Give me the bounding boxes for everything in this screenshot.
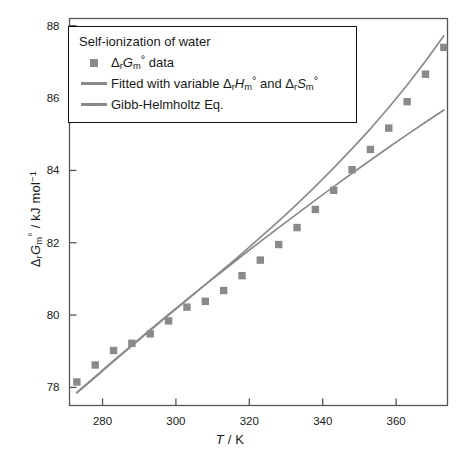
data-point-marker [385, 124, 392, 131]
x-axis-ticks [103, 399, 397, 406]
legend-marker-square-icon [77, 59, 111, 67]
data-point-marker [128, 340, 135, 347]
legend-line-variable-fit-icon [77, 82, 111, 84]
data-point-marker [220, 287, 227, 294]
legend-label-gibbs-helmholtz: Gibb-Helmholtz Eq. [111, 97, 224, 112]
x-tick-label: 340 [313, 415, 332, 427]
legend-entry-variable-fit: Fitted with variable ΔrHm° and ΔrSm° [77, 73, 348, 94]
x-tick-label: 360 [387, 415, 406, 427]
legend-label-data: ΔrGm° data [111, 53, 174, 71]
legend-line-gibbs-helmholtz-icon [77, 103, 111, 105]
series-line-gibbs-helmholtz [77, 110, 444, 392]
data-point-marker [257, 256, 264, 263]
data-point-marker [73, 378, 80, 385]
data-point-marker [440, 44, 447, 51]
legend-entry-data: ΔrGm° data [77, 52, 348, 73]
data-point-marker [293, 224, 300, 231]
data-point-marker [403, 98, 410, 105]
legend-label-variable-fit: Fitted with variable ΔrHm° and ΔrSm° [111, 74, 318, 92]
data-point-marker [147, 330, 154, 337]
legend-title: Self-ionization of water [79, 34, 348, 49]
data-point-marker [367, 146, 374, 153]
data-point-marker [238, 272, 245, 279]
x-tick-label: 320 [240, 415, 259, 427]
y-tick-label: 88 [24, 20, 60, 32]
y-tick-label: 78 [24, 381, 60, 393]
data-point-marker [91, 361, 98, 368]
data-point-marker [330, 187, 337, 194]
data-point-marker [348, 166, 355, 173]
data-point-marker [110, 347, 117, 354]
y-axis-title: ΔrGm° / kJ mol−1 [26, 89, 44, 349]
data-point-marker [165, 317, 172, 324]
data-point-marker [275, 241, 282, 248]
data-point-marker [202, 298, 209, 305]
x-tick-label: 300 [166, 415, 185, 427]
chart-figure: 280300320340360 788082848688 T / K ΔrGm°… [0, 0, 460, 456]
x-tick-label: 280 [93, 415, 112, 427]
data-point-marker [422, 71, 429, 78]
legend-box: Self-ionization of water ΔrGm° data Fitt… [68, 26, 357, 123]
data-point-marker [312, 206, 319, 213]
x-axis-title: T / K [0, 432, 460, 447]
legend-entry-gibbs-helmholtz: Gibb-Helmholtz Eq. [77, 94, 348, 115]
data-point-marker [183, 303, 190, 310]
